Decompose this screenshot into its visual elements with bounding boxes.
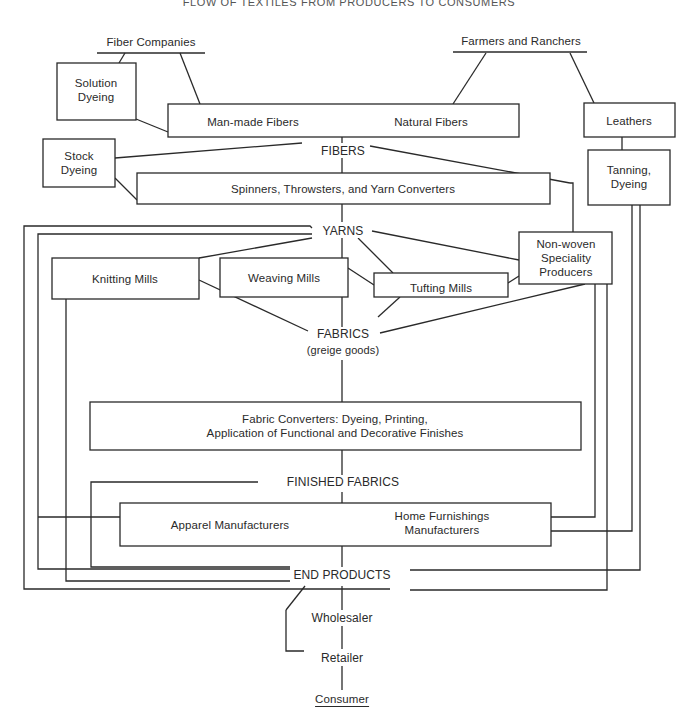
solution-dyeing-line1: Solution <box>75 76 117 90</box>
fabric-converters-line2: Application of Functional and Decorative… <box>207 426 464 440</box>
solution-dyeing-line2: Dyeing <box>75 90 117 104</box>
knitting-mills-box: Knitting Mills <box>92 272 158 286</box>
apparel-manufacturers-label: Apparel Manufacturers <box>171 518 289 532</box>
end-products-stage: END PRODUCTS <box>290 568 393 582</box>
consumer-label: Consumer <box>315 692 369 706</box>
weaving-mills-box: Weaving Mills <box>248 271 320 285</box>
non-woven-line3: Producers <box>536 265 595 279</box>
home-furnishings-line2: Manufacturers <box>395 523 490 537</box>
home-furnishings-line1: Home Furnishings <box>395 509 490 523</box>
non-woven-line1: Non-woven <box>536 237 595 251</box>
spinners-box: Spinners, Throwsters, and Yarn Converter… <box>231 182 455 196</box>
fabric-converters-line1: Fabric Converters: Dyeing, Printing, <box>207 412 464 426</box>
home-furnishings-label: Home Furnishings Manufacturers <box>395 509 490 537</box>
wholesaler-label: Wholesaler <box>308 611 375 625</box>
leathers-box: Leathers <box>606 114 652 128</box>
fiber-companies-label: Fiber Companies <box>106 35 195 49</box>
finished-fabrics-stage: FINISHED FABRICS <box>284 475 402 489</box>
tanning-line1: Tanning, <box>607 163 651 177</box>
non-woven-line2: Speciality <box>536 251 595 265</box>
natural-fibers-label: Natural Fibers <box>394 115 468 129</box>
consumer-text: Consumer <box>315 693 369 707</box>
man-made-fibers-label: Man-made Fibers <box>207 115 299 129</box>
diagram-title: FLOW OF TEXTILES FROM PRODUCERS TO CONSU… <box>183 0 516 8</box>
tanning-dyeing-box: Tanning, Dyeing <box>607 163 651 191</box>
solution-dyeing-box: Solution Dyeing <box>75 76 117 104</box>
fibers-stage: FIBERS <box>318 144 368 158</box>
stock-dyeing-box: Stock Dyeing <box>61 149 97 177</box>
stock-dyeing-line2: Dyeing <box>61 163 97 177</box>
stock-dyeing-line1: Stock <box>61 149 97 163</box>
yarns-stage: YARNS <box>320 224 367 238</box>
fabrics-stage: FABRICS <box>314 327 372 341</box>
tanning-line2: Dyeing <box>607 177 651 191</box>
farmers-ranchers-label: Farmers and Ranchers <box>461 34 581 48</box>
greige-goods-note: (greige goods) <box>307 343 379 357</box>
non-woven-box: Non-woven Speciality Producers <box>536 237 595 279</box>
fabric-converters-box: Fabric Converters: Dyeing, Printing, App… <box>207 412 464 440</box>
retailer-label: Retailer <box>318 651 366 665</box>
tufting-mills-box: Tufting Mills <box>410 281 472 295</box>
